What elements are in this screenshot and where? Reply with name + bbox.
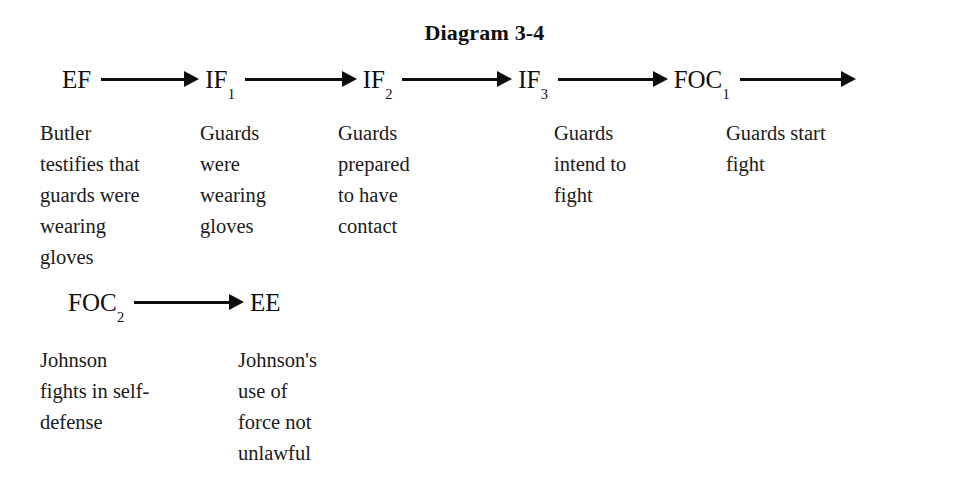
- node-if1: IF1: [205, 67, 234, 92]
- chain-row-1: EF IF1 IF2 IF3 FOC1: [62, 62, 856, 96]
- node-if2-subscript: 2: [385, 86, 392, 102]
- arrow-if1-if2: [245, 68, 357, 90]
- arrow-shaft: [245, 78, 343, 81]
- node-ef-base: EF: [62, 66, 91, 93]
- column-text-foc1: Guards start fight: [726, 118, 901, 180]
- chain-row-2: FOC2 EE: [68, 285, 280, 319]
- node-ee-base: EE: [250, 289, 281, 316]
- node-foc2-subscript: 2: [117, 309, 124, 325]
- column-text-ef: Butler testifies that guards were wearin…: [40, 118, 190, 273]
- node-foc2: FOC2: [68, 290, 124, 315]
- node-if1-subscript: 1: [228, 86, 235, 102]
- arrow-if3-foc1: [558, 68, 668, 90]
- arrow-head-icon: [229, 294, 244, 310]
- node-if2-base: IF: [363, 66, 385, 93]
- node-foc2-base: FOC: [68, 289, 117, 316]
- column-text-if3: Guards intend to fight: [554, 118, 694, 211]
- node-ee: EE: [250, 290, 281, 315]
- column-text-if2: Guards prepared to have contact: [338, 118, 478, 242]
- arrow-ef-if1: [101, 68, 199, 90]
- arrow-shaft: [134, 301, 230, 304]
- node-if3-base: IF: [518, 66, 540, 93]
- node-foc1-subscript: 1: [723, 86, 730, 102]
- node-if1-base: IF: [205, 66, 227, 93]
- node-if2: IF2: [363, 67, 392, 92]
- arrow-head-icon: [184, 71, 199, 87]
- node-if3-subscript: 3: [541, 86, 548, 102]
- arrow-shaft: [101, 78, 185, 81]
- arrow-foc2-ee: [134, 291, 244, 313]
- arrow-foc1-continuation: [740, 68, 856, 90]
- arrow-shaft: [402, 78, 498, 81]
- node-foc1-base: FOC: [674, 66, 723, 93]
- arrow-head-icon: [653, 71, 668, 87]
- arrow-head-icon: [841, 71, 856, 87]
- arrow-shaft: [558, 78, 654, 81]
- node-ef: EF: [62, 67, 91, 92]
- diagram-title: Diagram 3-4: [0, 20, 969, 46]
- column-text-foc2: Johnson fights in self- defense: [40, 345, 200, 438]
- arrow-if2-if3: [402, 68, 512, 90]
- node-if3: IF3: [518, 67, 547, 92]
- diagram-canvas: Diagram 3-4 EF IF1 IF2 IF3 FOC1: [0, 0, 969, 497]
- column-text-ee: Johnson's use of force not unlawful: [238, 345, 378, 469]
- arrow-head-icon: [497, 71, 512, 87]
- arrow-shaft: [740, 78, 842, 81]
- arrow-head-icon: [342, 71, 357, 87]
- column-text-if1: Guards were wearing gloves: [200, 118, 330, 242]
- node-foc1: FOC1: [674, 67, 730, 92]
